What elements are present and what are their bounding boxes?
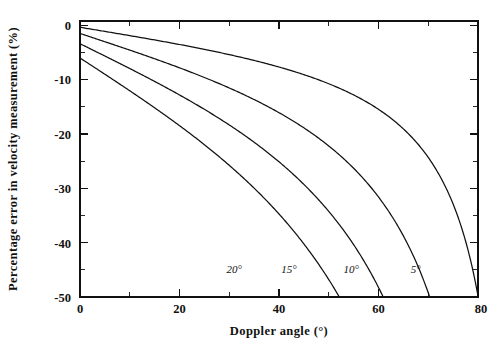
y-axis-title: Percentage error in velocity measurement… — [6, 27, 20, 291]
curve-group — [80, 27, 478, 297]
curve-15deg — [80, 44, 383, 297]
x-tick-label: 80 — [475, 302, 488, 316]
chart-svg: 0 20 40 60 80 0 -10 -20 -30 -40 -50 Dopp… — [0, 0, 499, 344]
plot-frame — [80, 21, 478, 297]
curve-20deg — [80, 58, 339, 297]
y-tick-labels: 0 -10 -20 -30 -40 -50 — [54, 19, 71, 305]
curve-10deg — [80, 33, 430, 297]
x-axis-title: Doppler angle (°) — [230, 324, 328, 338]
doppler-angle-error-chart: 0 20 40 60 80 0 -10 -20 -30 -40 -50 Dopp… — [0, 0, 499, 344]
curve-label-20deg: 20° — [227, 263, 243, 275]
x-tick-label: 0 — [77, 302, 83, 316]
y-axis-right-ticks — [470, 25, 478, 270]
y-tick-label: -10 — [54, 73, 71, 87]
y-axis-minor-ticks — [80, 52, 85, 270]
curve-label-10deg: 10° — [343, 263, 359, 275]
x-tick-label: 40 — [273, 302, 286, 316]
x-tick-label: 20 — [173, 302, 186, 316]
x-tick-label: 60 — [372, 302, 385, 316]
curve-label-5deg: 5° — [411, 263, 422, 275]
x-axis-top-ticks — [80, 21, 478, 29]
y-tick-label: -50 — [54, 291, 71, 305]
curve-label-15deg: 15° — [281, 263, 297, 275]
y-tick-label: 0 — [65, 19, 71, 33]
y-tick-label: -40 — [54, 237, 71, 251]
x-tick-labels: 0 20 40 60 80 — [77, 302, 487, 316]
y-tick-label: -20 — [54, 128, 71, 142]
x-axis-major-ticks — [80, 289, 478, 297]
y-tick-label: -30 — [54, 182, 71, 196]
